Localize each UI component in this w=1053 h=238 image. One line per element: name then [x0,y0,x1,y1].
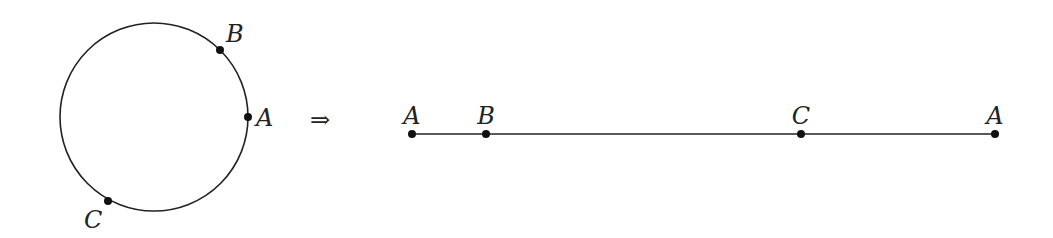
circle-to-line-diagram: BAC ⇒ ABCA [0,0,1053,238]
line-point-label-c: C [792,102,810,130]
point-label-a: A [254,104,273,132]
line-point-a-dot [991,130,999,138]
point-c-dot [104,197,112,205]
point-label-c: C [84,206,102,234]
line-point-a-dot [408,130,416,138]
point-b-dot [216,46,224,54]
line-point-label-a: A [984,102,1003,130]
line-point-b-dot [482,130,490,138]
line-point-label-a: A [401,102,420,130]
implies-arrow: ⇒ [310,106,330,134]
line-point-label-b: B [476,102,495,130]
line-point-c-dot [797,130,805,138]
point-a-dot [244,113,252,121]
point-label-b: B [225,20,244,48]
